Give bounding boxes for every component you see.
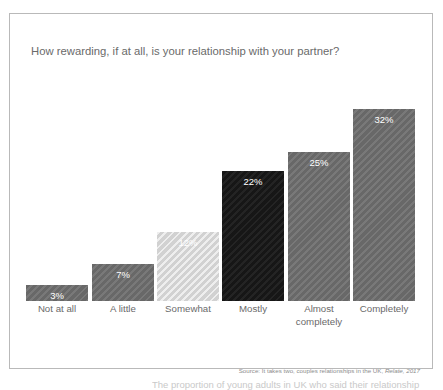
bar-slot-mostly: 22% (222, 74, 284, 301)
bar-value-completely: 32% (353, 114, 415, 125)
bar-completely[interactable]: 32% (353, 109, 415, 301)
bar-slot-somewhat: 12% (157, 74, 219, 301)
category-label-mostly: Mostly (222, 303, 284, 316)
source-note-publisher: Relate, 2017 (385, 367, 420, 374)
category-label-not-at-all: Not at all (26, 303, 88, 316)
bar-almost-completely[interactable]: 25% (288, 152, 350, 301)
bar-slot-almost-completely: 25% (288, 74, 350, 301)
category-label-line: Somewhat (157, 303, 219, 316)
source-note: Source: It takes two, couples relationsh… (239, 366, 420, 375)
bar-a-little[interactable]: 7% (92, 264, 154, 301)
bar-slot-completely: 32% (353, 74, 415, 301)
category-label-line: Almost (288, 303, 350, 316)
bar-slot-a-little: 7% (92, 74, 154, 301)
bar-chart-plot-area: 3% 7% 12% 22% 25% 32% (26, 74, 418, 301)
category-axis: Not at all A little Somewhat Mostly Almo… (26, 303, 418, 337)
bar-value-almost-completely: 25% (288, 157, 350, 168)
category-label-line: completely (288, 316, 350, 329)
source-note-text: Source: It takes two, couples relationsh… (239, 367, 385, 374)
chart-frame: How rewarding, if at all, is your relati… (9, 13, 433, 369)
category-label-line: Not at all (26, 303, 88, 316)
bar-value-mostly: 22% (222, 176, 284, 187)
bar-value-somewhat: 12% (157, 237, 219, 248)
bar-slot-not-at-all: 3% (26, 74, 88, 301)
category-label-a-little: A little (92, 303, 154, 316)
bar-value-not-at-all: 3% (26, 290, 88, 301)
chart-title: How rewarding, if at all, is your relati… (31, 44, 411, 58)
category-label-almost-completely: Almost completely (288, 303, 350, 328)
category-label-line: Mostly (222, 303, 284, 316)
category-label-completely: Completely (353, 303, 415, 316)
category-label-somewhat: Somewhat (157, 303, 219, 316)
category-label-line: A little (92, 303, 154, 316)
bar-value-a-little: 7% (92, 269, 154, 280)
category-label-line: Completely (353, 303, 415, 316)
bar-not-at-all[interactable]: 3% (26, 285, 88, 301)
bar-mostly[interactable]: 22% (222, 171, 284, 301)
page-body-caption: The proportion of young adults in UK who… (152, 379, 443, 390)
bar-somewhat[interactable]: 12% (157, 232, 219, 301)
